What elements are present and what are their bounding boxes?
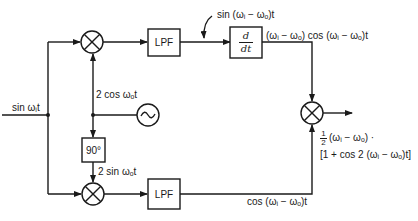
one-half-fraction: 1 2 <box>320 130 327 147</box>
phase-shift-block: 90° <box>82 138 105 162</box>
bottom-lpf-label: LPF <box>155 189 173 200</box>
sine-wave-icon <box>137 104 159 126</box>
phase-shift-label: 90° <box>86 145 101 156</box>
bottom-lpf-block: LPF <box>148 179 180 209</box>
top-lpf-block: LPF <box>148 29 180 56</box>
phase-shift-output-label: 2 sin ωₒt <box>98 166 136 177</box>
bottom-lpf-output-label: cos (ωᵢ − ωₒ)t <box>247 196 307 207</box>
oscillator-output-label: 2 cos ωₒt <box>96 89 137 100</box>
diff-numerator: d <box>243 31 249 41</box>
multiplier-icon <box>81 31 103 53</box>
multiplier-icon <box>301 102 323 124</box>
output-line1-text: (ωᵢ − ωₒ) · <box>329 132 374 143</box>
half-num: 1 <box>321 130 325 138</box>
multiplier-icon <box>82 183 104 205</box>
top-lpf-output-label: sin (ωᵢ − ωₒ)t <box>217 9 274 20</box>
output-label-line1: 1 2 (ωᵢ − ωₒ) · <box>320 130 374 147</box>
half-den: 2 <box>321 139 325 147</box>
differentiator-output-label: (ωᵢ − ωₒ) cos (ωᵢ − ωₒ)t <box>266 30 368 41</box>
output-label-line2: [1 + cos 2 (ωᵢ − ωₒ)t] <box>320 149 411 160</box>
diff-denominator: dt <box>241 44 251 54</box>
input-signal-label: sin ωᵢt <box>12 102 40 113</box>
differentiator-block: d dt <box>230 27 262 58</box>
differentiator-fraction: d dt <box>239 31 253 54</box>
top-lpf-label: LPF <box>155 37 173 48</box>
